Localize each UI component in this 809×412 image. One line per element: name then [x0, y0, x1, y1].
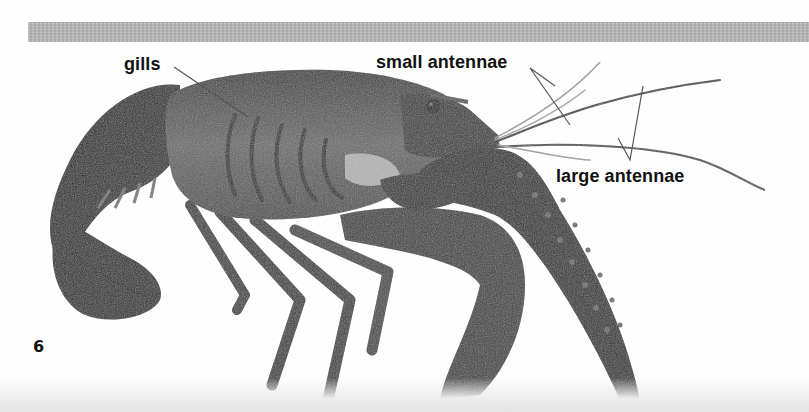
small-antennae-leader: [530, 68, 570, 125]
page-number: 6: [33, 337, 44, 356]
eye: [426, 99, 440, 113]
tail-fan: [53, 225, 161, 320]
claw-lower: [340, 208, 525, 401]
page-bottom-texture: [0, 378, 809, 412]
label-gills: gills: [124, 54, 161, 74]
head: [400, 93, 500, 157]
label-small-antennae: small antennae: [376, 52, 507, 72]
book-page: gills small antennae large antennae 6: [0, 0, 809, 412]
label-large-antennae: large antennae: [556, 166, 684, 186]
